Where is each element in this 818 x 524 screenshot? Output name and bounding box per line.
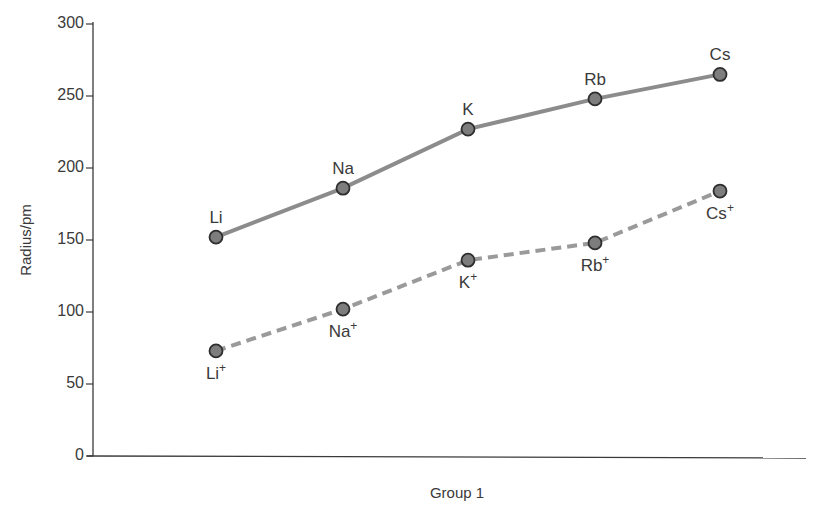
- point-label: Cs+: [706, 201, 734, 223]
- y-tick-label: 50: [66, 374, 84, 391]
- atomic-radius-line: [216, 74, 720, 237]
- data-point-marker: [337, 303, 350, 316]
- point-label: Cs: [710, 45, 731, 64]
- data-point-marker: [210, 231, 223, 244]
- point-label: Li+: [206, 361, 226, 383]
- y-tick-label: 0: [75, 446, 84, 463]
- data-point-marker: [589, 236, 602, 249]
- x-axis-title: Group 1: [430, 484, 484, 501]
- point-label: Li: [209, 208, 222, 227]
- point-label: Rb+: [581, 253, 610, 275]
- point-label: Na+: [329, 319, 358, 341]
- data-point-marker: [714, 68, 727, 81]
- point-label: Na: [332, 159, 354, 178]
- y-tick-label: 300: [57, 14, 84, 31]
- point-label: Rb: [584, 70, 606, 89]
- data-point-marker: [462, 123, 475, 136]
- ionic-radius-line: [216, 191, 720, 351]
- data-point-marker: [714, 185, 727, 198]
- y-tick-label: 150: [57, 230, 84, 247]
- x-axis: [87, 456, 806, 458]
- chart: 050100150200250300 Radius/pm Group 1 LiN…: [0, 0, 818, 524]
- y-tick-label: 250: [57, 86, 84, 103]
- y-tick-label: 100: [57, 302, 84, 319]
- y-ticks: 050100150200250300: [57, 14, 93, 463]
- y-tick-label: 200: [57, 158, 84, 175]
- series-layer: LiNaKRbCsLi+Na+K+Rb+Cs+: [206, 45, 734, 382]
- data-point-marker: [462, 254, 475, 267]
- data-point-marker: [337, 182, 350, 195]
- data-point-marker: [210, 344, 223, 357]
- point-label: K+: [459, 270, 477, 292]
- y-axis-title: Radius/pm: [17, 204, 34, 276]
- data-point-marker: [589, 92, 602, 105]
- point-label: K: [462, 100, 474, 119]
